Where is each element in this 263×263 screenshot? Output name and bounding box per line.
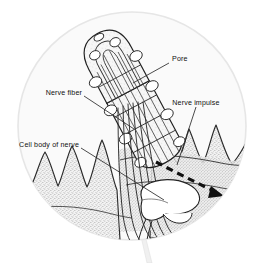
label-nerve-fiber: Nerve fiber: [46, 89, 83, 97]
diagram-canvas: Pore Nerve fiber Nerve impulse Cell body…: [0, 0, 263, 263]
taste-bud-figure: Pore Nerve fiber Nerve impulse Cell body…: [0, 0, 263, 263]
label-cell-body-of-nerve: Cell body of nerve: [19, 141, 79, 149]
label-nerve-impulse: Nerve impulse: [172, 99, 219, 107]
label-pore: Pore: [172, 55, 188, 63]
